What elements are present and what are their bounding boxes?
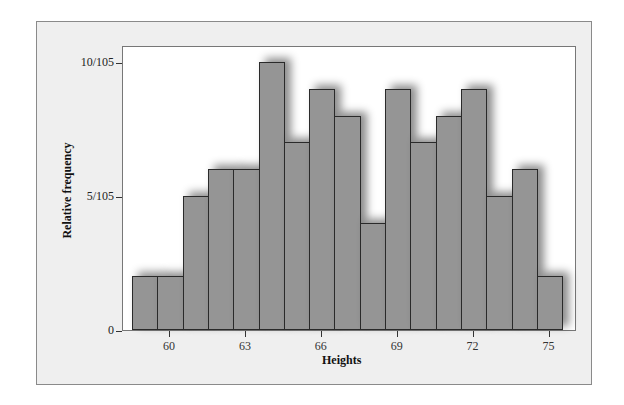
histogram-bar (461, 89, 487, 330)
x-tick-label: 60 (154, 339, 184, 354)
histogram-bar (183, 196, 209, 330)
x-tick (169, 331, 170, 337)
y-axis-title: Relative frequency (60, 136, 75, 246)
x-tick (245, 331, 246, 337)
x-tick (397, 331, 398, 337)
histogram-bar (512, 169, 538, 330)
y-tick-label: 10/105 (54, 55, 114, 70)
histogram-bar (132, 276, 158, 330)
x-tick (473, 331, 474, 337)
histogram-bar (486, 196, 512, 330)
y-tick-label: 0 (54, 323, 114, 338)
plot-area (122, 46, 576, 331)
x-tick-label: 75 (534, 339, 564, 354)
x-tick-label: 66 (306, 339, 336, 354)
histogram-bar (259, 62, 285, 330)
x-tick (549, 331, 550, 337)
x-tick-label: 72 (458, 339, 488, 354)
histogram-bar (436, 116, 462, 330)
histogram-bar (157, 276, 183, 330)
histogram-bar (309, 89, 335, 330)
histogram-bar (208, 169, 234, 330)
y-tick (116, 331, 122, 332)
histogram-bar (385, 89, 411, 330)
histogram-bar (360, 223, 386, 330)
y-tick (116, 197, 122, 198)
x-tick-label: 63 (230, 339, 260, 354)
x-axis-title: Heights (322, 353, 361, 368)
histogram-bar (410, 142, 436, 330)
x-tick (321, 331, 322, 337)
histogram-bar (233, 169, 259, 330)
histogram-bar (334, 116, 360, 330)
y-tick (116, 63, 122, 64)
x-tick-label: 69 (382, 339, 412, 354)
histogram-bar (284, 142, 310, 330)
histogram-bar (537, 276, 563, 330)
